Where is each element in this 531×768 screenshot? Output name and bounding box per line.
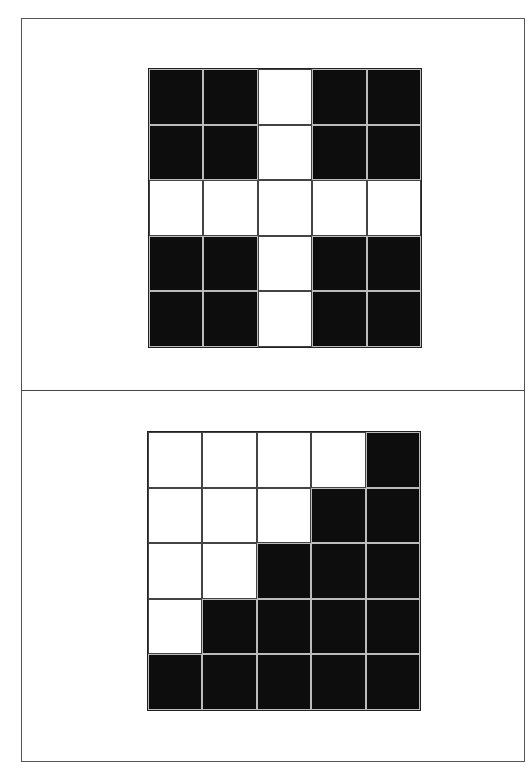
grid-cell [366, 488, 420, 544]
grid-cell [203, 125, 257, 181]
grid-cell [149, 125, 203, 181]
grid-cell [367, 291, 421, 347]
grid-cell [312, 291, 366, 347]
grid-cell [258, 291, 312, 347]
grid-cell [312, 69, 366, 125]
grid-cell [257, 488, 311, 544]
grid-cell [258, 180, 312, 236]
grid-cell [148, 432, 202, 488]
grid-cell [148, 488, 202, 544]
grid-cell [366, 543, 420, 599]
grid-cell [311, 543, 365, 599]
grid-cell [311, 488, 365, 544]
grid-cell [257, 654, 311, 710]
grid-cell [202, 654, 256, 710]
grid-cell [311, 432, 365, 488]
grid-cell [203, 180, 257, 236]
grid-cell [257, 543, 311, 599]
grid-cell [148, 543, 202, 599]
grid-cell [149, 291, 203, 347]
grid-cell [202, 488, 256, 544]
bottom-pattern-grid [147, 431, 421, 711]
grid-cell [366, 599, 420, 655]
grid-cell [149, 180, 203, 236]
grid-cell [203, 69, 257, 125]
grid-cell [311, 654, 365, 710]
grid-cell [149, 236, 203, 292]
grid-cell [312, 236, 366, 292]
grid-cell [366, 654, 420, 710]
grid-cell [148, 599, 202, 655]
grid-cell [258, 125, 312, 181]
grid-cell [367, 69, 421, 125]
grid-cell [312, 125, 366, 181]
grid-cell [257, 432, 311, 488]
grid-cell [367, 125, 421, 181]
grid-cell [366, 432, 420, 488]
grid-cell [367, 180, 421, 236]
grid-cell [312, 180, 366, 236]
grid-cell [202, 543, 256, 599]
top-pattern-grid [148, 68, 422, 348]
grid-cell [202, 599, 256, 655]
grid-cell [258, 69, 312, 125]
panel-divider [21, 390, 525, 391]
grid-cell [257, 599, 311, 655]
grid-cell [258, 236, 312, 292]
grid-cell [203, 236, 257, 292]
grid-cell [148, 654, 202, 710]
grid-cell [203, 291, 257, 347]
grid-cell [202, 432, 256, 488]
grid-cell [149, 69, 203, 125]
grid-cell [311, 599, 365, 655]
grid-cell [367, 236, 421, 292]
